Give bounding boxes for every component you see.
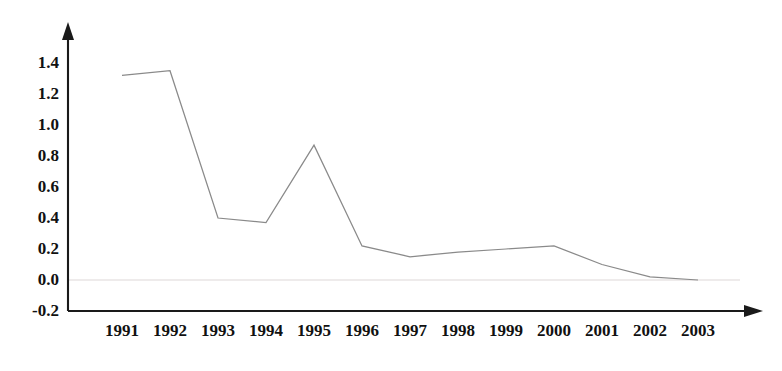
x-axis-arrow-icon: [744, 305, 763, 317]
chart-plot-area: [0, 0, 782, 371]
y-axis-tick-label: 0.8: [38, 147, 59, 164]
y-axis-tick-label: 0.4: [38, 209, 59, 226]
y-axis-tick-label: 1.2: [38, 85, 59, 102]
y-axis-tick-label: 1.4: [38, 54, 59, 71]
y-axis-tick-label: 0.6: [38, 178, 59, 195]
y-axis-arrow-icon: [62, 22, 74, 40]
line-chart-figure: 1.41.21.00.80.60.40.20.0-0.2 19911992199…: [0, 0, 782, 371]
y-axis-tick-label: -0.2: [32, 302, 59, 319]
data-line-series-1: [122, 71, 698, 280]
data-series-group: [122, 71, 698, 280]
y-axis-tick-label: 0.0: [38, 271, 59, 288]
y-axis-tick-label: 0.2: [38, 240, 59, 257]
x-axis-tick-label: 2003: [668, 322, 728, 339]
y-axis-tick-label: 1.0: [38, 116, 59, 133]
axis-group: [62, 22, 763, 317]
